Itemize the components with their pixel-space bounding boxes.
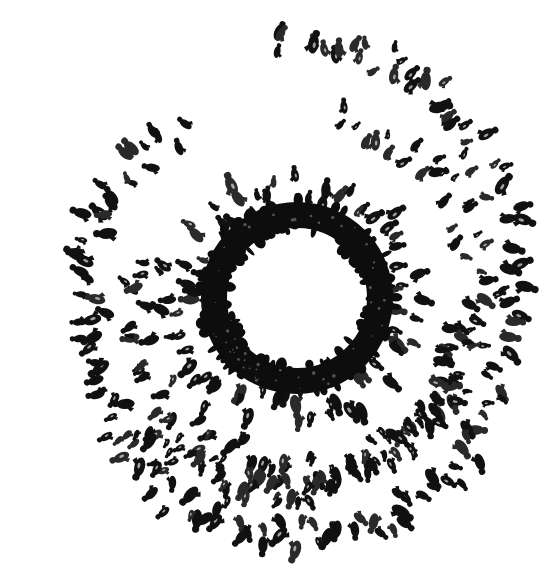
spiral-crowd-illustration — [0, 0, 556, 583]
illustration-canvas — [0, 0, 556, 583]
